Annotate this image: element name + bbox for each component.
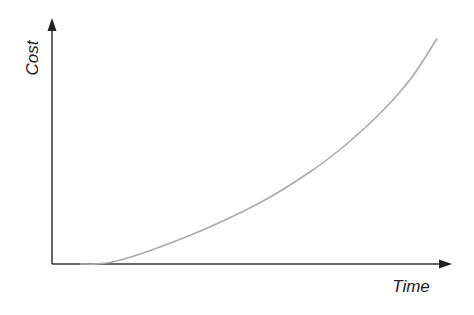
y-axis-arrow-icon	[48, 18, 57, 31]
cost-curve	[80, 39, 437, 265]
x-axis-label: Time	[392, 277, 430, 296]
y-axis-label: Cost	[23, 39, 42, 75]
cost-time-chart: Cost Time	[0, 0, 474, 315]
x-axis-arrow-icon	[439, 260, 452, 269]
